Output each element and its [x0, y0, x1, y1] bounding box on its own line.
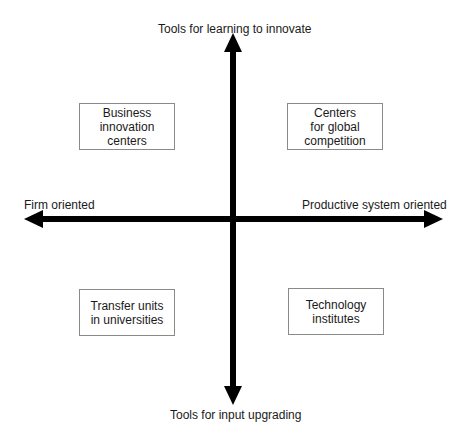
- quadrant-label: Centers for global competition: [304, 106, 365, 148]
- axis-label-top: Tools for learning to innovate: [158, 22, 311, 36]
- arrow-down-icon: [224, 386, 242, 405]
- axes: [0, 0, 465, 437]
- axis-label-right: Productive system oriented: [302, 198, 447, 212]
- arrow-right-icon: [424, 210, 443, 228]
- quadrant-label: Technology institutes: [306, 298, 367, 326]
- quadrant-box-top-left: Business innovation centers: [79, 103, 175, 150]
- axis-label-bottom: Tools for input upgrading: [170, 408, 301, 422]
- quadrant-label: Business innovation centers: [100, 106, 155, 148]
- quadrant-box-top-right: Centers for global competition: [287, 103, 383, 150]
- axis-label-left: Firm oriented: [24, 198, 95, 212]
- quadrant-box-bottom-right: Technology institutes: [288, 288, 384, 335]
- arrow-left-icon: [24, 210, 43, 228]
- quadrant-box-bottom-left: Transfer units in universities: [79, 289, 175, 336]
- quadrant-label: Transfer units in universities: [91, 299, 164, 327]
